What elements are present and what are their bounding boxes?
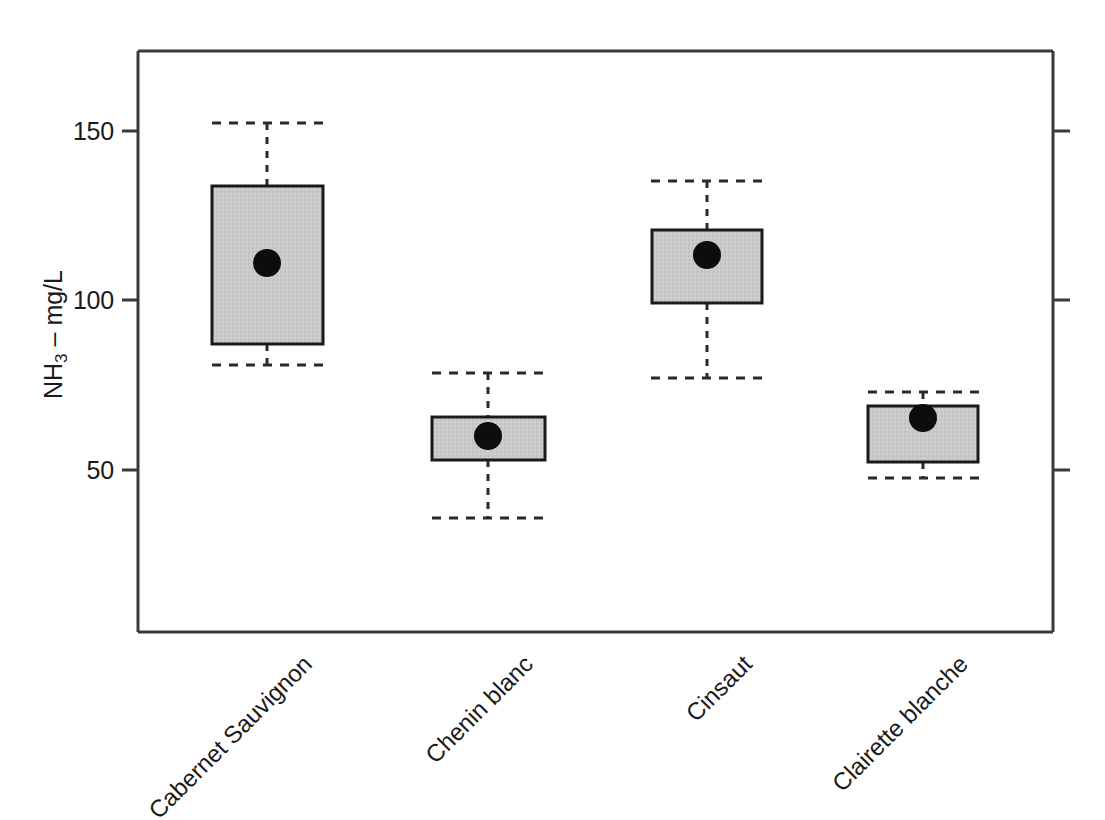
figure-canvas: 150 100 50 NH3 – mg/L Cabernet Sauvignon… [0, 0, 1105, 820]
mean-marker-dot [474, 422, 502, 450]
y-axis-title-subscript: 3 [52, 353, 71, 362]
box-group-cabernet-sauvignon [212, 123, 327, 365]
y-axis-ticks-right [1053, 131, 1070, 470]
ytick-label-50: 50 [38, 456, 114, 485]
y-axis-ticks-left [122, 131, 138, 470]
ytick-label-150: 150 [38, 117, 114, 146]
mean-marker-dot [909, 404, 937, 432]
box-group-clairette-blanche [868, 392, 983, 478]
y-axis-title-suffix: – mg/L [39, 270, 67, 353]
y-axis-title-prefix: NH [39, 363, 67, 399]
mean-marker-dot [693, 241, 721, 269]
box-group-cinsaut [651, 181, 767, 378]
y-axis-title: NH3 – mg/L [39, 230, 68, 440]
mean-marker-dot [253, 249, 281, 277]
box-group-chenin-blanc [432, 373, 548, 518]
